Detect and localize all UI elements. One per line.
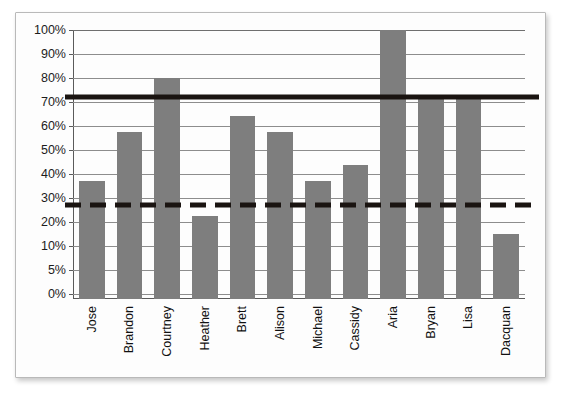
x-label-slot: Brett [224,302,262,374]
bar[interactable] [192,216,218,299]
lower-benchmark-line [65,202,539,207]
bar-slot [299,30,337,299]
bar[interactable] [343,165,369,300]
y-tick-label: 90% [41,48,66,61]
bar[interactable] [380,30,406,299]
x-axis-label-courtney: Courtney [161,306,174,357]
y-tick-label: 10% [41,240,66,253]
bar-series [73,30,525,299]
bar-slot [148,30,186,299]
upper-benchmark-line [65,95,539,100]
x-label-slot: Michael [299,302,337,374]
x-axis-label-bryan: Bryan [425,306,438,339]
x-axis-label-lisa: Lisa [462,306,475,329]
bar-slot [337,30,375,299]
x-axis-label-heather: Heather [199,306,212,350]
bar[interactable] [456,97,482,299]
x-label-slot: Alison [261,302,299,374]
chart-card: 100%90%80%70%60%50%40%30%20%10%5%0% Jose… [15,12,546,378]
y-tick-label: 20% [41,216,66,229]
x-axis-label-dacquan: Dacquan [500,306,513,356]
x-label-slot: Heather [186,302,224,374]
y-tick-label: 70% [41,96,66,109]
bar-slot [73,30,111,299]
bar-slot [487,30,525,299]
bar-slot [374,30,412,299]
x-axis-label-jose: Jose [86,306,99,332]
bar[interactable] [117,132,143,299]
bar[interactable] [79,181,105,299]
x-axis-label-alison: Alison [274,306,287,340]
x-axis-label-cassidy: Cassidy [349,306,362,350]
x-axis-label-brett: Brett [236,306,249,332]
bar[interactable] [418,97,444,299]
x-axis-category-labels: JoseBrandonCourtneyHeatherBrettAlisonMic… [73,302,525,374]
plot-area: 100%90%80%70%60%50%40%30%20%10%5%0% [73,30,525,299]
bar[interactable] [493,234,519,299]
x-label-slot: Dacquan [487,302,525,374]
y-tick-label: 50% [41,144,66,157]
x-label-slot: Courtney [148,302,186,374]
y-tick-label: 30% [41,192,66,205]
bar-slot [412,30,450,299]
bar-slot [111,30,149,299]
x-axis-label-brandon: Brandon [123,306,136,353]
y-tick-label: 40% [41,168,66,181]
x-label-slot: Cassidy [337,302,375,374]
x-label-slot: Bryan [412,302,450,374]
bar-slot [261,30,299,299]
bar-slot [224,30,262,299]
y-tick-label: 0% [48,288,66,301]
x-label-slot: Aria [374,302,412,374]
y-tick-label: 5% [48,264,66,277]
scanned-page: 100%90%80%70%60%50%40%30%20%10%5%0% Jose… [0,0,567,399]
bar-slot [450,30,488,299]
bar[interactable] [267,132,293,299]
x-label-slot: Jose [73,302,111,374]
x-axis-label-aria: Aria [387,306,400,328]
x-label-slot: Lisa [450,302,488,374]
x-label-slot: Brandon [111,302,149,374]
bar[interactable] [230,116,256,299]
y-tick-label: 60% [41,120,66,133]
x-axis-label-michael: Michael [312,306,325,349]
bar-slot [186,30,224,299]
y-tick-label: 80% [41,72,66,85]
bar[interactable] [305,181,331,299]
y-tick-label: 100% [34,24,66,37]
bar[interactable] [154,78,180,299]
